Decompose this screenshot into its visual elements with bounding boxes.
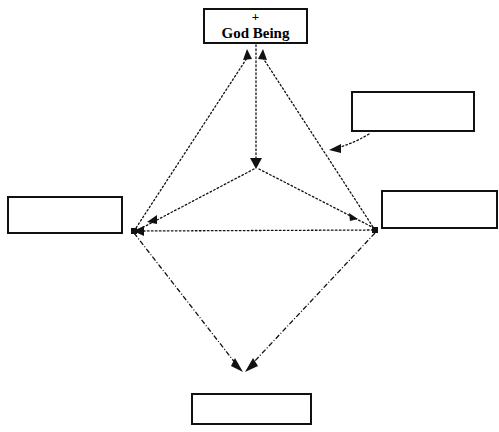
edge-left-vertex-to-bottom [134,233,243,372]
node-left[interactable] [7,196,123,234]
edge-right-vertex-to-god-being [258,49,375,230]
edge-right-vertex-to-bottom [245,233,375,372]
node-god-being[interactable]: + God Being [203,8,308,44]
diagram-canvas: + God Being [0,0,499,432]
right-vertex-dot [372,227,378,233]
node-god-being-plus: + [252,10,259,24]
edge-upper-right-box-curve [329,134,369,153]
edge-left-vertex-to-god-being [134,49,252,231]
edge-center-point-to-right-vertex [259,169,374,228]
edge-right-vertex-to-left-vertex [133,226,373,236]
left-vertex-dot [131,228,137,234]
node-upper-right[interactable] [351,91,475,132]
node-right[interactable] [381,190,498,229]
node-bottom[interactable] [191,393,312,425]
node-god-being-label: God Being [222,25,290,41]
edge-god-being-to-center-point [250,45,262,169]
